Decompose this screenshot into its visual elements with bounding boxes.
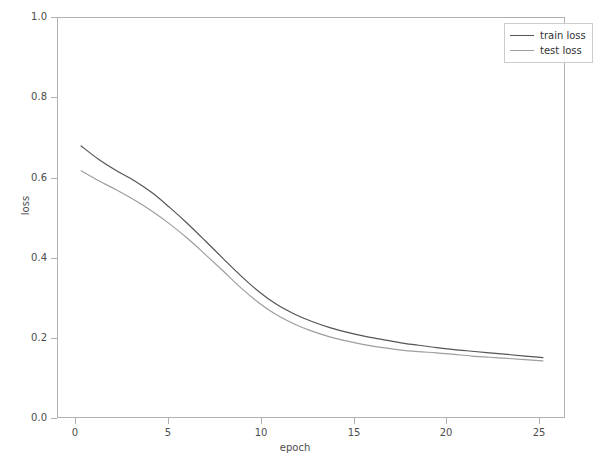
x-axis-label: epoch [0, 442, 590, 453]
legend-swatch-train-loss [510, 35, 534, 36]
legend-label-train-loss: train loss [540, 31, 586, 41]
y-tick-label: 0.0 [5, 413, 47, 423]
y-tick-label: 0.8 [5, 92, 47, 102]
plot-area [57, 17, 565, 418]
y-tick-mark [51, 418, 57, 419]
legend-item-train-loss: train loss [510, 28, 586, 43]
y-tick-label: 1.0 [5, 12, 47, 22]
x-tick-label: 10 [241, 428, 281, 438]
x-tick-label: 5 [148, 428, 188, 438]
y-axis-label: loss [20, 176, 31, 236]
legend-label-test-loss: test loss [540, 46, 582, 56]
x-tick-label: 20 [426, 428, 466, 438]
data-lines [58, 18, 566, 419]
legend-item-test-loss: test loss [510, 43, 586, 58]
y-tick-label: 0.4 [5, 253, 47, 263]
x-tick-label: 15 [334, 428, 374, 438]
y-tick-label: 0.2 [5, 333, 47, 343]
legend-swatch-test-loss [510, 50, 534, 51]
line-test-loss [81, 171, 543, 361]
legend: train loss test loss [504, 23, 593, 63]
x-tick-label: 0 [55, 428, 95, 438]
line-train-loss [81, 146, 543, 358]
x-tick-label: 25 [519, 428, 559, 438]
